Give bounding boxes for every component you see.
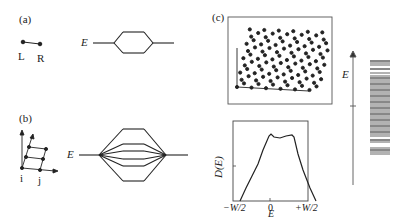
- dos-plot-frame: [233, 121, 308, 201]
- panel-a-levels: [93, 32, 174, 53]
- panel-a-label: (a): [19, 14, 31, 25]
- figure-canvas: [0, 0, 408, 218]
- site-i-label: i: [20, 173, 23, 184]
- panel-b-levels: [79, 129, 188, 181]
- panel-c-lattice: [235, 28, 329, 92]
- site-L-label: L: [18, 51, 25, 62]
- dos-xtick-max: +W/2: [295, 203, 318, 213]
- panel-b-energy-label: E: [67, 149, 74, 160]
- panel-b-label: (b): [19, 113, 32, 124]
- spectrum-energy-label: E: [342, 69, 349, 80]
- dos-xtick-min: −W/2: [223, 203, 246, 213]
- panel-a-energy-label: E: [81, 37, 88, 48]
- site-j-label: j: [38, 175, 41, 186]
- panel-c-label: (c): [212, 12, 224, 23]
- dos-xlabel: E: [268, 209, 274, 218]
- dos-ylabel: D(E): [213, 156, 224, 178]
- panel-b-lattice: [20, 130, 58, 173]
- panel-a-sites: [21, 40, 42, 46]
- spectrum-energy-axis: [350, 51, 356, 185]
- spectrum-levels: [370, 61, 390, 154]
- site-R-label: R: [37, 53, 44, 64]
- dos-curve: [240, 134, 316, 201]
